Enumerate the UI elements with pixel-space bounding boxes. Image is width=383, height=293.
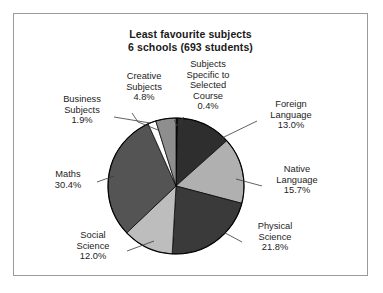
label-creative-line1: Creative — [113, 71, 175, 82]
label-foreign-line1: Foreign — [257, 99, 325, 110]
label-business-pct: 1.9% — [51, 115, 113, 126]
label-subjects-specific: Subjects Specific to Selected Course 0.4… — [173, 59, 243, 112]
label-specific-line1: Subjects — [173, 59, 243, 70]
label-business-subjects: Business Subjects 1.9% — [51, 94, 113, 126]
pie-slices — [108, 118, 244, 254]
label-specific-line3: Selected — [173, 80, 243, 91]
label-social-line1: Social — [61, 230, 125, 241]
label-maths: Maths 30.4% — [39, 169, 97, 190]
chart-frame: Least favourite subjects 6 schools (693 … — [13, 13, 368, 276]
leader-business — [114, 117, 150, 123]
label-physical-line1: Physical — [243, 221, 307, 232]
label-creative-subjects: Creative Subjects 4.8% — [113, 71, 175, 103]
label-maths-line1: Maths — [39, 169, 97, 180]
label-social-science: Social Science 12.0% — [61, 230, 125, 262]
label-social-line2: Science — [61, 241, 125, 252]
label-foreign-language: Foreign Language 13.0% — [257, 99, 325, 131]
label-creative-line2: Subjects — [113, 82, 175, 93]
label-business-line2: Subjects — [51, 105, 113, 116]
label-creative-pct: 4.8% — [113, 92, 175, 103]
label-foreign-pct: 13.0% — [257, 120, 325, 131]
label-physical-pct: 21.8% — [243, 242, 307, 253]
label-native-language: Native Language 15.7% — [263, 164, 331, 196]
label-specific-line2: Specific to — [173, 70, 243, 81]
label-native-pct: 15.7% — [263, 185, 331, 196]
label-maths-pct: 30.4% — [39, 180, 97, 191]
label-physical-line2: Science — [243, 232, 307, 243]
label-social-pct: 12.0% — [61, 251, 125, 262]
pie-chart: Least favourite subjects 6 schools (693 … — [14, 14, 367, 275]
label-physical-science: Physical Science 21.8% — [243, 221, 307, 253]
label-specific-line4: Course — [173, 91, 243, 102]
label-native-line2: Language — [263, 175, 331, 186]
label-native-line1: Native — [263, 164, 331, 175]
label-business-line1: Business — [51, 94, 113, 105]
label-foreign-line2: Language — [257, 110, 325, 121]
label-specific-pct: 0.4% — [173, 101, 243, 112]
leader-foreign — [222, 121, 257, 138]
